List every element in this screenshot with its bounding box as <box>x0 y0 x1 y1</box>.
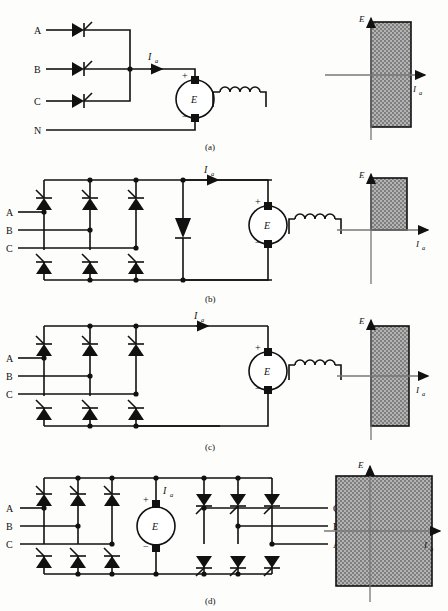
minus-sign: − <box>143 541 149 552</box>
source-label: E <box>190 94 197 105</box>
minus-sign: − <box>255 383 261 394</box>
subfigure-b: A B C I a E + − E I a (b) <box>0 162 448 310</box>
caption-b: (b) <box>205 294 216 304</box>
chart-xlabel-c: I <box>415 385 420 395</box>
phase-label-left-a: A <box>6 503 14 514</box>
chart-ylabel-a: E <box>358 14 365 24</box>
minus-sign: − <box>182 111 188 122</box>
plus-sign: + <box>255 342 261 353</box>
quadrant-chart-d: E I a <box>324 460 440 602</box>
phase-label-a: A <box>6 207 14 218</box>
current-sub: a <box>201 316 204 323</box>
chart-xlabel-sub-d: a <box>430 545 433 552</box>
phase-label-left-c: C <box>6 539 13 550</box>
current-sub: a <box>211 170 214 177</box>
chart-xlabel-a: I <box>412 84 417 94</box>
phase-label-c: C <box>34 96 41 107</box>
chart-ylabel-d: E <box>357 460 364 470</box>
current-label: I <box>147 51 152 62</box>
subfigure-d: A B C C B A I a E + − E I a (d) <box>0 456 448 611</box>
plus-sign: + <box>143 494 149 505</box>
subfigure-a: A B C N I a E + − E I a (a) <box>0 0 448 160</box>
chart-xlabel-sub-b: a <box>422 244 425 251</box>
current-sub: a <box>170 491 173 498</box>
neutral-label: N <box>34 125 41 136</box>
phase-label-c: C <box>6 243 13 254</box>
quadrant-chart-b: E I a <box>337 170 428 284</box>
phase-label-c: C <box>6 389 13 400</box>
quadrant-chart-c: E I a <box>337 316 428 440</box>
source-label: E <box>263 220 270 231</box>
phase-label-b: B <box>6 225 13 236</box>
phase-label-a: A <box>6 353 14 364</box>
plus-sign: + <box>182 70 188 81</box>
source-label: E <box>151 521 158 532</box>
chart-xlabel-sub-a: a <box>419 89 422 96</box>
caption-a: (a) <box>205 142 215 152</box>
subfigure-c: A B C I a E + − E I a (c) <box>0 308 448 458</box>
current-label: I <box>193 310 198 321</box>
current-label: I <box>203 164 208 175</box>
caption-c: (c) <box>205 442 215 452</box>
current-label: I <box>162 485 167 496</box>
current-sub: a <box>155 57 158 64</box>
phase-label-a: A <box>34 25 42 36</box>
caption-d: (d) <box>205 596 216 606</box>
phase-label-left-b: B <box>6 521 13 532</box>
quadrant-chart-a: E I a <box>325 14 425 140</box>
chart-xlabel-sub-c: a <box>422 390 425 397</box>
chart-ylabel-b: E <box>358 170 365 180</box>
source-label: E <box>263 366 270 377</box>
minus-sign: − <box>255 237 261 248</box>
chart-xlabel-b: I <box>415 239 420 249</box>
phase-label-b: B <box>34 64 41 75</box>
phase-label-b: B <box>6 371 13 382</box>
chart-ylabel-c: E <box>358 316 365 326</box>
plus-sign: + <box>255 196 261 207</box>
